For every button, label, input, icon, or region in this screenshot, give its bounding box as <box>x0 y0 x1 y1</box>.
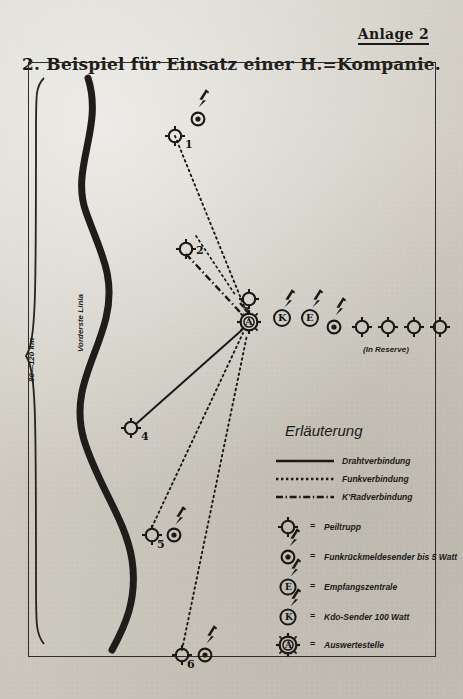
legend-label-auswertestelle: Auswertestelle <box>324 640 384 650</box>
station-1-label: 1 <box>185 138 193 151</box>
station-6-bolt-icon <box>206 626 216 644</box>
diagram-page: Anlage 2 2. Beispiel für Einsatz einer H… <box>0 0 463 699</box>
station-1-bolt-icon <box>198 90 208 108</box>
link-station-1-funk <box>175 136 246 311</box>
depth-scale-label: 80—120 km <box>27 338 36 382</box>
legend-letter-e: E <box>285 582 292 592</box>
reserve-bolt-icon <box>335 298 345 316</box>
front-line <box>80 78 133 650</box>
legend-letter-a: A <box>285 640 292 650</box>
station-5-label: 5 <box>157 538 165 551</box>
reserve-sender[interactable] <box>328 321 341 334</box>
reserve-peiltrupp-4[interactable] <box>430 317 450 337</box>
reserve-peiltrupp-3[interactable] <box>404 317 424 337</box>
reserve-label: (In Reserve) <box>363 345 409 354</box>
hub-k-label: K <box>278 312 287 323</box>
legend-equals-4: = <box>310 611 315 621</box>
station-6-sender[interactable] <box>199 649 212 662</box>
legend-label-empfangszentrale: Empfangszentrale <box>324 582 397 592</box>
legend-label-peiltrupp: Peiltrupp <box>324 522 361 532</box>
reserve-peiltrupp-2[interactable] <box>378 317 398 337</box>
front-line-label: Vorderste Linia <box>76 294 85 352</box>
legend-equals-3: = <box>310 581 315 591</box>
legend-equals-5: = <box>310 639 315 649</box>
link-station-6-funk <box>182 335 247 650</box>
legend-title: Erläuterung <box>285 422 363 439</box>
legend-label-sender: Funkrückmeldesender bis 5 Watt <box>324 552 457 562</box>
legend-label-funk: Funkverbindung <box>342 474 409 484</box>
station-2-peiltrupp[interactable] <box>176 239 196 259</box>
station-5-bolt-icon <box>175 507 185 525</box>
station-6-label: 6 <box>187 658 195 671</box>
hub-kdo-bolt-icon <box>284 290 294 308</box>
reserve-peiltrupp-1[interactable] <box>352 317 372 337</box>
hub-a-label: A <box>245 316 253 327</box>
link-station-5-funk <box>152 333 243 527</box>
station-5-sender[interactable] <box>168 529 181 542</box>
legend-letter-k: K <box>285 612 293 622</box>
station-2-label: 2 <box>196 244 204 257</box>
station-4-label: 4 <box>141 430 149 443</box>
legend-symbol-sender <box>282 551 295 564</box>
hub-empfang-bolt-icon <box>312 290 322 308</box>
link-station-4-draht <box>136 329 243 424</box>
legend-equals-2: = <box>310 551 315 561</box>
legend-equals-1: = <box>310 521 315 531</box>
legend-label-krad: K'Radverbindung <box>342 492 413 502</box>
station-1-sender[interactable] <box>192 113 205 126</box>
legend-label-draht: Drahtverbindung <box>342 456 410 466</box>
hub-e-label: E <box>306 312 314 323</box>
legend-label-kdo-sender: Kdo-Sender 100 Watt <box>324 612 409 622</box>
